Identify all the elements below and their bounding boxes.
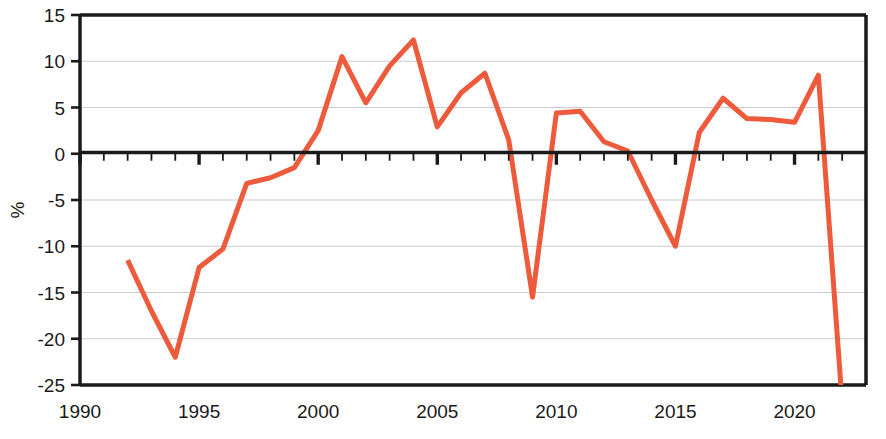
x-axis-tick-label: 2015 [654,401,696,422]
y-axis-tick-label: -15 [38,283,65,304]
x-axis-tick-label: 2010 [535,401,577,422]
x-axis-tick-label: 1990 [59,401,101,422]
y-axis-tick-label: -10 [38,236,65,257]
y-axis-tick-label: -25 [38,375,65,396]
y-axis-tick-label: 10 [44,51,65,72]
chart-page: 151050-5-10-15-20-25 1990199520002005201… [0,0,886,439]
y-axis-tick-label: 0 [54,144,65,165]
y-axis-tick-label: 15 [44,5,65,26]
line-chart-figure: 151050-5-10-15-20-25 1990199520002005201… [0,0,886,439]
x-axis-tick-label: 2020 [773,401,815,422]
chart-canvas: 151050-5-10-15-20-25 1990199520002005201… [0,0,886,439]
chart-background [0,0,886,439]
y-axis-tick-label: 5 [54,98,65,119]
y-axis-tick-label: -20 [38,329,65,350]
x-axis-tick-label: 2005 [416,401,458,422]
x-axis-tick-label: 1995 [178,401,220,422]
y-axis-tick-label: -5 [48,190,65,211]
y-axis-label: % [7,201,28,218]
x-axis-tick-label: 2000 [297,401,339,422]
